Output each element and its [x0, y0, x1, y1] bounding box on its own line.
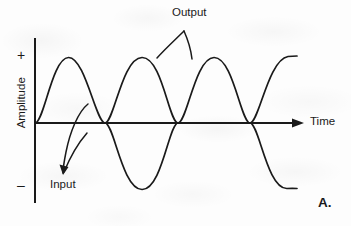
output-leader-right	[184, 31, 192, 59]
y-axis-negative-tick-label: –	[17, 178, 25, 192]
output-leader-left	[157, 31, 184, 58]
input-callout-arrow	[60, 104, 89, 175]
output-waveform	[105, 56, 297, 123]
input-annotation-label: Input	[50, 179, 76, 191]
input-arrow-barb	[64, 133, 87, 172]
output-annotation-label: Output	[172, 7, 207, 19]
output-arch-4	[250, 56, 297, 123]
output-arch-2	[105, 57, 178, 123]
panel-label: A.	[318, 196, 332, 210]
input-arrow-shaft	[63, 104, 88, 173]
y-axis-positive-tick-label: +	[17, 48, 25, 62]
x-axis-arrowhead	[292, 119, 304, 128]
x-axis-label: Time	[310, 116, 335, 128]
waveform-figure: Time Amplitude + – Output Input A.	[0, 0, 351, 226]
plot-canvas	[0, 0, 351, 226]
output-callout-leaders	[157, 31, 192, 59]
y-axis-label: Amplitude	[16, 72, 28, 134]
